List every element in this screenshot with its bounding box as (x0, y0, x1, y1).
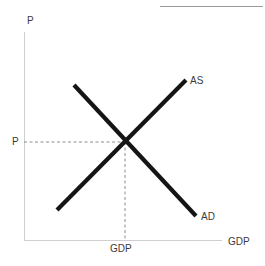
ad-curve (74, 85, 196, 216)
as-ad-diagram-figure: P P AS AD GDP GDP (0, 0, 265, 266)
y-axis-tick-label: P (12, 136, 19, 147)
as-curve (57, 80, 186, 210)
curves-layer (0, 0, 265, 266)
y-axis-label: P (27, 15, 34, 26)
x-axis-label: GDP (228, 236, 250, 247)
x-axis-tick-label: GDP (110, 243, 132, 254)
ad-curve-label: AD (201, 211, 215, 222)
as-curve-label: AS (190, 75, 203, 86)
